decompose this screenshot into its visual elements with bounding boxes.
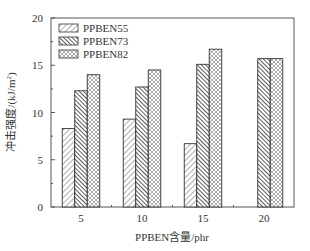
y-tick-label: 15 <box>32 59 44 71</box>
y-tick-label: 10 <box>32 107 44 119</box>
x-tick-label: 15 <box>198 212 210 224</box>
bar-ppben73-10 <box>136 87 149 207</box>
bar-ppben55-5 <box>62 129 75 207</box>
y-tick-label: 20 <box>32 12 44 24</box>
bar-series <box>62 49 283 207</box>
x-axis: 5101520 <box>78 203 270 224</box>
x-tick-label: 10 <box>137 212 149 224</box>
y-tick-label: 5 <box>38 154 44 166</box>
legend-label-ppben73: PPBEN73 <box>83 35 129 47</box>
bar-ppben55-10 <box>123 119 136 207</box>
y-tick-label: 0 <box>38 201 44 213</box>
legend-label-ppben82: PPBEN82 <box>83 48 128 60</box>
bar-ppben82-10 <box>148 70 161 207</box>
y-axis: 05101520 <box>32 12 55 213</box>
x-tick-label: 5 <box>78 212 84 224</box>
legend: PPBEN55PPBEN73PPBEN82 <box>59 22 129 60</box>
x-axis-label: PPBEN含量/phr <box>135 230 209 243</box>
impact-strength-bar-chart: 05101520 5101520 PPBEN55PPBEN73PPBEN82 P… <box>0 0 310 251</box>
x-tick-label: 20 <box>259 212 271 224</box>
legend-swatch-ppben55 <box>59 24 78 32</box>
y-axis-label-main: 冲击强度/(kJ/m <box>4 79 18 152</box>
bar-ppben73-20 <box>258 59 271 207</box>
bar-ppben82-15 <box>209 49 222 207</box>
bar-ppben82-20 <box>270 59 283 207</box>
legend-swatch-ppben73 <box>59 37 78 45</box>
bar-ppben73-5 <box>75 91 88 207</box>
legend-label-ppben55: PPBEN55 <box>83 22 129 34</box>
bar-ppben82-5 <box>87 75 100 207</box>
bar-ppben55-15 <box>184 144 197 207</box>
legend-swatch-ppben82 <box>59 50 78 58</box>
bar-ppben73-15 <box>197 64 210 207</box>
y-axis-label: 冲击强度/(kJ/m2) <box>4 72 18 152</box>
svg-text:冲击强度/(kJ/m2): 冲击强度/(kJ/m2) <box>4 72 18 152</box>
y-axis-label-close: ) <box>5 72 18 76</box>
